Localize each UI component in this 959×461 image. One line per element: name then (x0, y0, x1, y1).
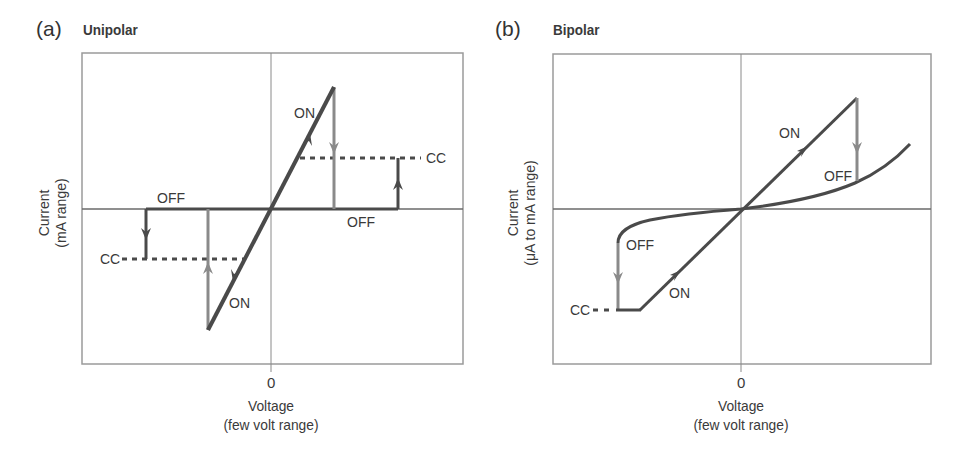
panel-a-plot: ON ON OFF OFF CC CC (82, 53, 463, 372)
panel-a-label-off-left: OFF (157, 190, 185, 206)
panel-b-plot: ON ON OFF OFF CC (553, 54, 931, 372)
diagram-canvas: ON ON OFF OFF CC CC ON ON OFF OFF CC (0, 0, 959, 461)
panel-b-off-curve (618, 144, 910, 243)
panel-b-label-cc: CC (570, 302, 590, 318)
panel-b-label-on-upper: ON (779, 125, 800, 141)
panel-a-label-cc-upper: CC (426, 150, 446, 166)
panel-b-label-on-lower: ON (669, 285, 690, 301)
panel-a-label-on-upper: ON (294, 105, 315, 121)
panel-a-label-on-lower: ON (229, 295, 250, 311)
panel-b-label-off-upper: OFF (824, 168, 852, 184)
panel-a-label-cc-lower: CC (100, 251, 120, 267)
panel-b-label-off-lower: OFF (626, 237, 654, 253)
panel-b-on-line (640, 98, 857, 310)
panel-a-label-off-right: OFF (347, 214, 375, 230)
